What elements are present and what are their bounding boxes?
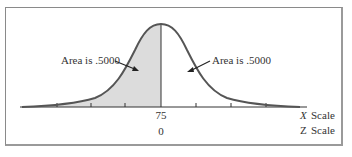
- x-center-value: 75: [156, 109, 168, 121]
- left-area-label: Area is .5000: [61, 54, 120, 66]
- z-scale-var: Z: [300, 124, 307, 136]
- z-scale-label: Scale: [311, 124, 335, 136]
- z-center-value: 0: [158, 125, 164, 137]
- x-scale-var: X: [299, 109, 308, 121]
- normal-curve-diagram: Area is .5000 Area is .5000 75 0 X Scale…: [0, 0, 352, 157]
- right-area-label: Area is .5000: [212, 54, 271, 66]
- x-scale-label: Scale: [311, 109, 335, 121]
- right-arrowhead-icon: [187, 67, 194, 72]
